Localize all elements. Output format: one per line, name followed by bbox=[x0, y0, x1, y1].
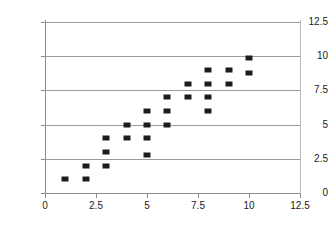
data-point bbox=[144, 136, 151, 141]
data-point bbox=[103, 136, 110, 141]
data-point bbox=[144, 122, 151, 127]
x-axis-line bbox=[45, 193, 301, 194]
x-axis-label: 7.5 bbox=[178, 201, 218, 211]
data-point bbox=[123, 136, 130, 141]
data-point bbox=[164, 122, 171, 127]
y-tick-mark bbox=[41, 90, 45, 91]
plot-right-spine bbox=[300, 20, 301, 195]
data-point bbox=[82, 177, 89, 182]
y-axis-label: 5 bbox=[290, 120, 328, 130]
y-tick-mark bbox=[41, 22, 45, 23]
data-point bbox=[62, 177, 69, 182]
gridline-y-10 bbox=[45, 56, 300, 57]
y-axis-label: 12.5 bbox=[290, 17, 328, 27]
data-point bbox=[225, 81, 232, 86]
data-point bbox=[205, 81, 212, 86]
x-tick-mark bbox=[96, 194, 97, 198]
gridline-y-12.5 bbox=[45, 22, 300, 23]
scatter-chart: 02.557.51012.5 02.557.51012.5 bbox=[0, 0, 328, 228]
data-point bbox=[164, 95, 171, 100]
data-point bbox=[205, 67, 212, 72]
data-point bbox=[164, 108, 171, 113]
data-point bbox=[246, 70, 253, 75]
x-axis-label: 5 bbox=[127, 201, 167, 211]
data-point bbox=[144, 108, 151, 113]
y-tick-mark bbox=[41, 159, 45, 160]
x-tick-mark bbox=[45, 194, 46, 198]
x-axis-label: 2.5 bbox=[76, 201, 116, 211]
x-axis-label: 12.5 bbox=[280, 201, 320, 211]
data-point bbox=[144, 152, 151, 157]
y-axis-label: 10 bbox=[290, 51, 328, 61]
gridline-y-2.5 bbox=[45, 159, 300, 160]
y-axis-label: 0 bbox=[290, 188, 328, 198]
gridline-y-7.5 bbox=[45, 90, 300, 91]
x-axis-label: 0 bbox=[25, 201, 65, 211]
plot-area bbox=[45, 22, 300, 193]
data-point bbox=[184, 81, 191, 86]
data-point bbox=[82, 163, 89, 168]
data-point bbox=[225, 67, 232, 72]
data-point bbox=[184, 95, 191, 100]
gridline-y-5 bbox=[45, 125, 300, 126]
data-point bbox=[103, 163, 110, 168]
y-tick-mark bbox=[41, 125, 45, 126]
y-axis-label: 7.5 bbox=[290, 85, 328, 95]
y-axis-line bbox=[45, 20, 46, 195]
data-point bbox=[103, 149, 110, 154]
data-point bbox=[205, 95, 212, 100]
data-point bbox=[123, 122, 130, 127]
x-axis-label: 10 bbox=[229, 201, 269, 211]
x-tick-mark bbox=[249, 194, 250, 198]
data-point bbox=[246, 55, 253, 60]
x-tick-mark bbox=[198, 194, 199, 198]
x-tick-mark bbox=[147, 194, 148, 198]
y-tick-mark bbox=[41, 56, 45, 57]
y-axis-label: 2.5 bbox=[290, 154, 328, 164]
data-point bbox=[205, 108, 212, 113]
